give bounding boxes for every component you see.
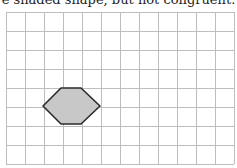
shaded-hexagon [43, 88, 100, 124]
square-grid [6, 12, 235, 165]
grid-diagram [0, 0, 237, 168]
